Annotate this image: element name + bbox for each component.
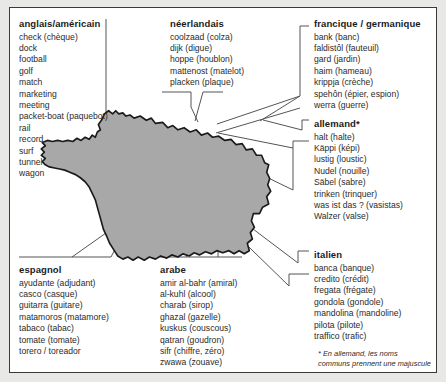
entry-item: haim (hameau): [314, 66, 421, 77]
connector-francique-rule: [300, 26, 309, 96]
entry-item: meeting: [19, 100, 108, 111]
entry-item: hoppe (houblon): [170, 54, 244, 65]
connector-francique-c: [216, 108, 300, 133]
connector-anglais-a: [106, 113, 155, 139]
entry-item: fregata (frégate): [314, 285, 401, 296]
entry-item: placken (plaque): [170, 77, 244, 88]
entry-item: Walzer (valse): [314, 211, 403, 222]
entry-item: matamoros (matamore): [19, 312, 109, 323]
block-neerlandais: néerlandais coolzaad (colza) dijk (digue…: [170, 18, 244, 89]
footnote-line-1: * En allemand, les noms: [318, 349, 431, 359]
entry-item: golf: [19, 66, 108, 77]
entry-item: surf: [19, 146, 108, 157]
block-header-arabe: arabe: [160, 264, 237, 275]
connector-francique-b: [260, 96, 300, 121]
connector-arabe-a: [186, 234, 198, 257]
entry-item: gondola (gondole): [314, 297, 401, 308]
entry-item: ayudante (adjudant): [19, 278, 109, 289]
entry-item: casco (casque): [19, 289, 109, 300]
entry-item: zwawa (zouave): [160, 357, 237, 368]
connector-anglais-b: [106, 132, 156, 138]
connector-espagnol-b: [111, 234, 123, 257]
entry-item: werra (guerre): [314, 100, 421, 111]
entry-item: Nudel (nouille): [314, 166, 403, 177]
entry-item: bank (banc): [314, 32, 421, 43]
entry-item: faldistôl (fauteuil): [314, 43, 421, 54]
entry-item: guitarra (guitare): [19, 300, 109, 311]
entry-item: was ist das ? (vasistas): [314, 200, 403, 211]
entry-item: tomate (tomate): [19, 335, 109, 346]
entry-item: football: [19, 54, 108, 65]
entry-item: kuskus (couscous): [160, 323, 237, 334]
block-francique-germanique: francique / germanique bank (banc) faldi…: [314, 18, 421, 111]
entry-item: lustig (loustic): [314, 154, 403, 165]
connector-neer-rule-a: [162, 92, 191, 107]
entry-item: mandolina (mandoline): [314, 308, 401, 319]
entry-item: mattenost (matelot): [170, 66, 244, 77]
connector-italien-rule-a: [298, 251, 309, 263]
figure-frame: anglais/américain check (chèque) dock fo…: [9, 7, 437, 373]
connector-allemand-b: [218, 133, 293, 148]
entry-item: banca (banque): [314, 263, 401, 274]
block-header-anglais: anglais/américain: [19, 18, 108, 29]
entry-item: check (chèque): [19, 32, 108, 43]
entry-item: sifr (chiffre, zéro): [160, 346, 237, 357]
entry-item: al-kuhl (alcool): [160, 289, 237, 300]
connector-neer-a: [191, 107, 198, 122]
block-header-allemand: allemand*: [314, 118, 403, 129]
entry-item: pilota (pilote): [314, 320, 401, 331]
entry-item: torero / toreador: [19, 346, 109, 357]
entry-item: halt (halte): [314, 132, 403, 143]
block-header-italien: italien: [314, 249, 401, 260]
entry-item: Säbel (sabre): [314, 177, 403, 188]
block-anglais-americain: anglais/américain check (chèque) dock fo…: [19, 18, 108, 180]
block-header-neerlandais: néerlandais: [170, 18, 244, 29]
entry-item: charab (sirop): [160, 300, 237, 311]
entry-item: krippja (crèche): [314, 77, 421, 88]
entry-item: ghazal (gazelle): [160, 312, 237, 323]
entry-item: dock: [19, 43, 108, 54]
entry-item: credito (crédit): [314, 274, 401, 285]
footnote: * En allemand, les noms communs prennent…: [318, 349, 431, 368]
connector-allemand-rule-a: [302, 120, 309, 130]
block-header-espagnol: espagnol: [19, 264, 109, 275]
connector-italien-rule-b: [289, 274, 309, 286]
entry-item: amir al-bahr (amiral): [160, 278, 237, 289]
block-arabe: arabe amir al-bahr (amiral) al-kuhl (alc…: [160, 264, 237, 369]
entry-item: Käppi (képi): [314, 143, 403, 154]
connector-allemand-rule-b: [293, 141, 309, 190]
footnote-line-2: communs prennent une majuscule: [318, 359, 431, 369]
connector-italien-a: [220, 204, 298, 263]
connector-espagnol-a: [72, 216, 130, 257]
entry-item: match: [19, 77, 108, 88]
entry-item: rail: [19, 123, 108, 134]
block-allemand: allemand* halt (halte) Käppi (képi) lust…: [314, 118, 403, 223]
connector-francique-a: [217, 96, 300, 124]
block-header-francique: francique / germanique: [314, 18, 421, 29]
entry-item: trinken (trinquer): [314, 189, 403, 200]
connector-allemand-c: [221, 155, 293, 190]
entry-item: wagon: [19, 168, 108, 179]
entry-item: traffico (trafic): [314, 331, 401, 342]
connector-neer-b: [195, 92, 203, 121]
block-italien: italien banca (banque) credito (crédit) …: [314, 249, 401, 342]
entry-item: gard (jardin): [314, 54, 421, 65]
entry-item: record: [19, 134, 108, 145]
entry-item: tabaco (tabac): [19, 323, 109, 334]
entry-item: spehôn (épier, espion): [314, 89, 421, 100]
entry-item: tunnel: [19, 157, 108, 168]
connector-allemand-a: [263, 120, 302, 130]
entry-item: coolzaad (colza): [170, 32, 244, 43]
entry-item: qatran (goudron): [160, 335, 237, 346]
entry-item: marketing: [19, 89, 108, 100]
entry-item: dijk (digue): [170, 43, 244, 54]
entry-item: packet-boat (paquebot): [19, 111, 108, 122]
block-espagnol: espagnol ayudante (adjudant) casco (casq…: [19, 264, 109, 357]
